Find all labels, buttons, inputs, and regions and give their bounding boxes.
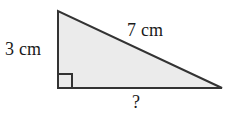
label-hypotenuse: 7 cm — [127, 21, 163, 39]
label-base-unknown: ? — [132, 93, 140, 111]
geometry-figure: 3 cm 7 cm ? — [0, 0, 230, 116]
label-vertical-leg: 3 cm — [5, 40, 41, 58]
